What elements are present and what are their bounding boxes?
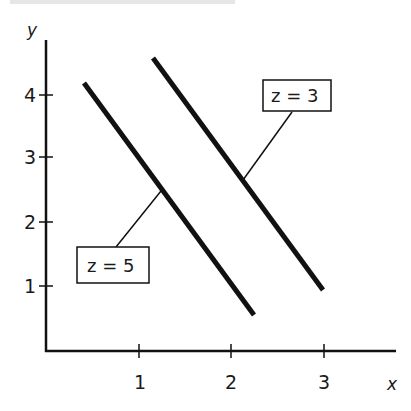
leader-z3 (243, 112, 292, 180)
y-tick-label: 1 (24, 275, 36, 297)
leader-z5 (116, 191, 161, 247)
y-tick-label: 3 (24, 146, 36, 168)
y-axis-label: y (26, 20, 38, 40)
label-z5: z = 5 (87, 255, 134, 276)
x-tick-label: 1 (134, 371, 146, 393)
label-z3: z = 3 (271, 85, 318, 106)
x-axis-label: x (386, 374, 398, 394)
cut-off-heading (10, 0, 235, 4)
chart: 4 3 2 1 1 2 3 y x z = 5 z = 3 (0, 0, 411, 411)
x-tick-label: 2 (225, 371, 237, 393)
y-tick-label: 4 (24, 84, 36, 106)
x-tick-label: 3 (318, 371, 330, 393)
y-tick-label: 2 (24, 211, 36, 233)
